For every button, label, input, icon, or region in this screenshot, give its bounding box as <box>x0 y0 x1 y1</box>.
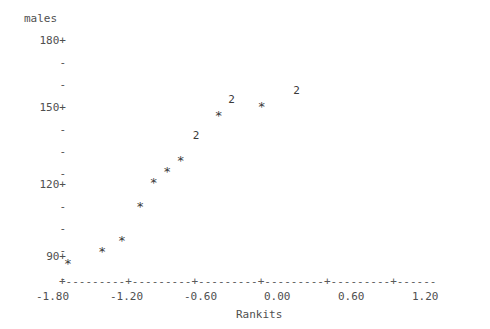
data-point-marker: * <box>177 154 185 167</box>
data-point-marker: * <box>215 109 223 122</box>
y-tick-dash: - <box>16 146 66 157</box>
y-tick-label-180: 180+ <box>16 35 66 46</box>
data-point-marker: * <box>64 257 72 270</box>
x-axis-title: Rankits <box>236 308 282 321</box>
y-tick-label-150-real: 150+ <box>16 102 66 113</box>
character-scatter-plot: males 180+ - - - 150+ 150+ - 150+ - - - … <box>0 0 490 329</box>
data-point-marker: * <box>150 176 158 189</box>
data-point-marker: * <box>136 200 144 213</box>
y-tick-dash: - <box>16 223 66 234</box>
y-tick-dash: - <box>16 57 66 68</box>
data-point-marker: * <box>98 245 106 258</box>
x-axis-line: +---------+---------+---------+---------… <box>59 275 437 288</box>
x-tick-label--1.20: -1.20 <box>110 290 143 303</box>
data-point-overplot-count: 2 <box>228 94 235 105</box>
data-point-overplot-count: 2 <box>293 85 300 96</box>
x-tick-label--0.60: -0.60 <box>184 290 217 303</box>
x-tick-label--1.80: -1.80 <box>36 290 69 303</box>
x-tick-label-0.00: 0.00 <box>264 290 291 303</box>
data-point-marker: * <box>163 165 171 178</box>
y-axis-title: males <box>24 12 57 25</box>
data-point-marker: * <box>258 100 266 113</box>
data-point-marker: * <box>118 234 126 247</box>
y-tick-label-120: 120+ <box>16 179 66 190</box>
x-tick-label-0.60: 0.60 <box>338 290 365 303</box>
y-tick-dash: - <box>16 201 66 212</box>
y-tick-dash: - <box>16 124 66 135</box>
y-tick-label-90: 90+ <box>16 251 66 262</box>
data-point-overplot-count: 2 <box>193 130 200 141</box>
x-tick-label-1.20: 1.20 <box>412 290 439 303</box>
y-tick-dash: - <box>16 79 66 90</box>
